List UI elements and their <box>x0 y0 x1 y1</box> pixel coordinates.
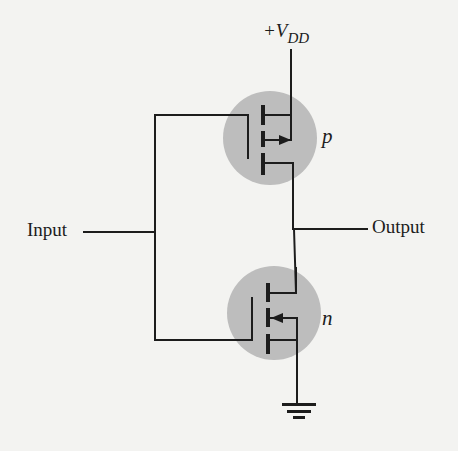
pmos-highlight-circle <box>223 91 317 185</box>
vdd-label-main: +V <box>263 20 287 41</box>
nmos-channel <box>266 283 270 354</box>
pmos-channel <box>261 105 265 175</box>
pmos-label: p <box>322 124 333 149</box>
output-label: Output <box>372 216 425 238</box>
nmos-label: n <box>322 306 333 331</box>
nmos-highlight-circle <box>227 266 321 360</box>
vdd-label: +VDD <box>263 20 309 42</box>
cmos-inverter-diagram: +VDD Input Output p n <box>0 0 458 451</box>
input-label: Input <box>27 219 67 241</box>
ground-icon <box>282 403 316 419</box>
vdd-label-subscript: DD <box>287 30 309 46</box>
